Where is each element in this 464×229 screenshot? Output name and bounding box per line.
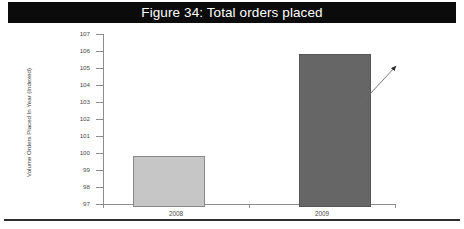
- y-tick: 103: [62, 102, 90, 103]
- y-tick-label: 101: [62, 132, 90, 139]
- y-tick-label: 105: [62, 64, 90, 71]
- y-tick-label: 104: [62, 81, 90, 88]
- bar-2009[interactable]: [299, 54, 371, 207]
- footer-divider: [4, 219, 460, 221]
- y-tick-label: 102: [62, 115, 90, 122]
- y-tick: 99: [62, 170, 90, 171]
- y-tick: 97: [62, 204, 90, 205]
- x-tick-mark: [395, 204, 396, 208]
- figure-title: Figure 34: Total orders placed: [141, 5, 322, 20]
- y-tick-label: 103: [62, 98, 90, 105]
- x-axis-label-2008: 2008: [141, 210, 211, 217]
- bar-2008[interactable]: [133, 156, 205, 207]
- y-tick-label: 98: [62, 183, 90, 190]
- y-tick: 104: [62, 85, 90, 86]
- y-tick: 105: [62, 68, 90, 69]
- y-tick: 101: [62, 136, 90, 137]
- y-tick: 107: [62, 34, 90, 35]
- y-tick-label: 99: [62, 166, 90, 173]
- y-tick-label: 100: [62, 149, 90, 156]
- y-tick: 98: [62, 187, 90, 188]
- plot-area: [103, 31, 395, 207]
- x-tick-mark: [249, 204, 250, 208]
- x-axis-label-2009: 2009: [287, 210, 357, 217]
- x-tick-mark: [103, 204, 104, 208]
- y-axis-title: Volume Orders Placed In Year (Indexed): [25, 49, 32, 197]
- figure-title-banner: Figure 34: Total orders placed: [8, 2, 456, 23]
- y-tick: 100: [62, 153, 90, 154]
- y-tick-label: 106: [62, 47, 90, 54]
- y-tick-label: 97: [62, 200, 90, 207]
- y-tick-label: 107: [62, 30, 90, 37]
- chart-container: Volume Orders Placed In Year (Indexed) 1…: [0, 23, 464, 209]
- y-tick: 106: [62, 51, 90, 52]
- y-tick: 102: [62, 119, 90, 120]
